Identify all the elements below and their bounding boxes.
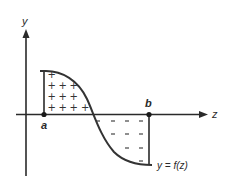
y-axis-arrow-icon (23, 29, 30, 38)
curve-label: y = f(z) (156, 160, 188, 171)
plus-sign: + (81, 102, 89, 113)
y-axis-label: y (21, 15, 29, 27)
plus-sign: + (70, 80, 78, 91)
function-curve (40, 71, 152, 165)
z-axis-arrow-icon (199, 111, 208, 118)
z-axis-label: z (211, 108, 218, 120)
plus-sign: + (48, 80, 56, 91)
point-a-label: a (41, 119, 47, 131)
plus-sign: + (48, 102, 56, 113)
plus-sign: + (70, 91, 78, 102)
plus-sign: + (59, 91, 67, 102)
plus-sign: + (70, 102, 78, 113)
point-a (41, 112, 46, 117)
plus-sign: + (48, 91, 56, 102)
integral-diagram: y z a b + + + + + + + + + + + (0, 0, 225, 186)
point-b (146, 112, 151, 117)
negative-region-signs (96, 121, 143, 161)
plus-sign: + (48, 69, 56, 80)
plus-sign: + (59, 102, 67, 113)
point-b-label: b (145, 97, 152, 109)
plus-sign: + (59, 80, 67, 91)
y-axis (23, 29, 30, 176)
